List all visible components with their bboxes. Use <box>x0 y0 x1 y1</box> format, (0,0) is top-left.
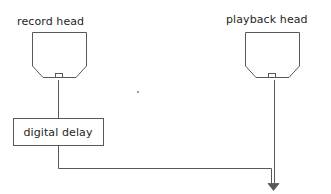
record-head-node <box>33 33 87 78</box>
record-head-label: record head <box>17 16 84 27</box>
connection-digital-delay-to-summing-point <box>59 146 272 184</box>
record-head-shape <box>33 33 87 78</box>
stray-dot-marker <box>137 91 139 93</box>
signal-flow-diagram: record head playback head digital delay <box>0 0 331 194</box>
record-head-gap-notch <box>56 74 63 78</box>
playback-head-gap-notch <box>269 74 276 78</box>
playback-head-label: playback head <box>226 14 308 25</box>
digital-delay-label: digital delay <box>13 118 103 146</box>
output-arrowhead-icon <box>268 184 279 191</box>
diagram-canvas <box>0 0 331 194</box>
playback-head-node <box>246 33 300 78</box>
playback-head-shape <box>246 33 300 78</box>
